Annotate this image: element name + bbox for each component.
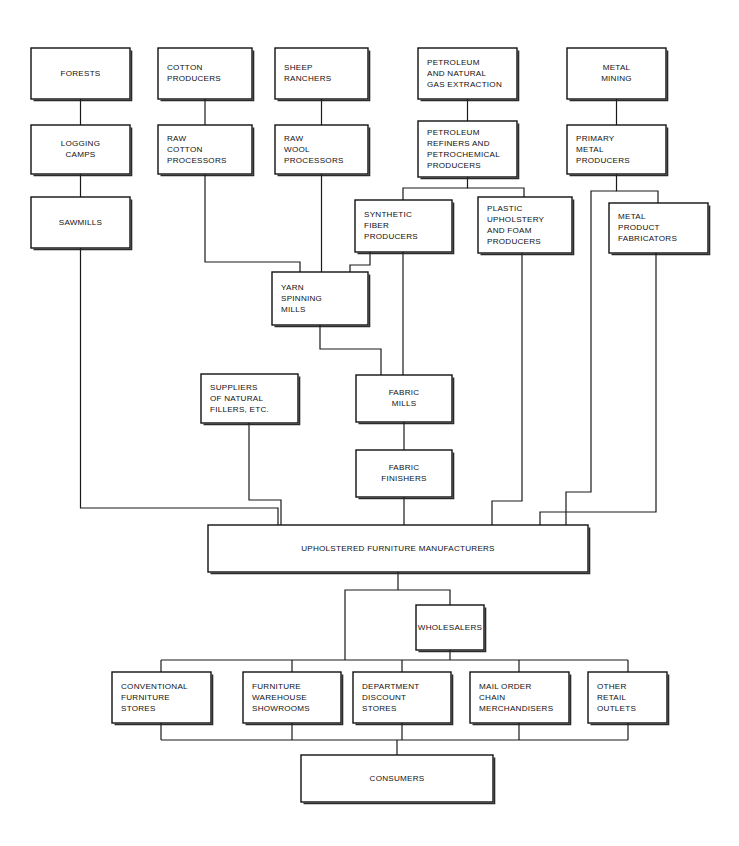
node-label: PRODUCERS [487,237,541,246]
node-label: PROCESSORS [284,156,344,165]
node-raw_wool[interactable]: RAWWOOLPROCESSORS [275,125,370,176]
node-label: FORESTS [61,69,101,78]
node-label: WHOLESALERS [418,623,483,632]
node-label: PROCESSORS [167,156,227,165]
node-raw_cotton[interactable]: RAWCOTTONPROCESSORS [158,125,254,176]
node-label: UPHOLSTERY [487,215,545,224]
node-label: FURNITURE [252,682,301,691]
node-label: CONSUMERS [370,774,425,783]
node-petro_refiners[interactable]: PETROLEUMREFINERS ANDPETROCHEMICALPRODUC… [418,121,519,179]
node-label: GAS EXTRACTION [427,80,502,89]
node-label: CAMPS [65,150,95,159]
node-label: PETROCHEMICAL [427,150,500,159]
node-label: PETROLEUM [427,58,480,67]
node-label: SHEEP [284,63,313,72]
node-sawmills[interactable]: SAWMILLS [31,197,132,250]
node-other_retail[interactable]: OTHERRETAILOUTLETS [588,672,669,725]
node-label: OTHER [597,682,627,691]
node-label: PRODUCERS [167,74,221,83]
node-label: PETROLEUM [427,128,480,137]
connector-plastic-manufacturers [492,253,522,525]
node-label: FURNITURE [121,693,170,702]
node-layer: FORESTSCOTTONPRODUCERSSHEEPRANCHERSPETRO… [31,48,710,804]
connector-manufacturers-wholesalers [398,590,450,605]
node-sheep_ranch[interactable]: SHEEPRANCHERS [275,48,370,101]
node-manufacturers[interactable]: UPHOLSTERED FURNITURE MANUFACTURERS [208,525,590,574]
node-label: OUTLETS [597,704,636,713]
node-metal_fab[interactable]: METALPRODUCTFABRICATORS [609,203,710,255]
node-label: MERCHANDISERS [479,704,554,713]
node-label: COTTON [167,63,203,72]
node-suppliers[interactable]: SUPPLIERSOF NATURALFILLERS, ETC. [201,374,300,425]
node-label: MINING [601,74,632,83]
node-furn_ware[interactable]: FURNITUREWAREHOUSESHOWROOMS [243,672,343,725]
node-label: LOGGING [61,139,101,148]
node-metal_mining[interactable]: METALMINING [567,48,668,101]
node-label: SUPPLIERS [210,383,258,392]
node-label: RAW [284,134,303,143]
node-label: PRIMARY [576,134,615,143]
node-label: PLASTIC [487,204,523,213]
node-logging[interactable]: LOGGINGCAMPS [31,125,132,176]
node-mail_order[interactable]: MAIL ORDERCHAINMERCHANDISERS [470,672,571,725]
node-label: RETAIL [597,693,626,702]
node-label: MAIL ORDER [479,682,532,691]
node-fabric_mills[interactable]: FABRICMILLS [356,375,454,424]
node-label: WAREHOUSE [252,693,307,702]
node-petroleum_ext[interactable]: PETROLEUMAND NATURALGAS EXTRACTION [418,48,519,101]
node-label: METAL [576,145,604,154]
node-synth_fiber[interactable]: SYNTHETICFIBERPRODUCERS [355,200,454,254]
connector-refiners-plastic [468,188,525,197]
node-label: AND NATURAL [427,69,487,78]
node-label: UPHOLSTERED FURNITURE MANUFACTURERS [301,544,495,553]
node-wholesalers[interactable]: WHOLESALERS [416,605,486,652]
node-label: PRODUCT [618,223,660,232]
node-primary_metal[interactable]: PRIMARYMETALPRODUCERS [567,125,668,176]
node-label: STORES [121,704,156,713]
connector-manufacturers-direct [345,590,398,660]
node-label: FIBER [364,221,389,230]
node-plastic_uph[interactable]: PLASTICUPHOLSTERYAND FOAMPRODUCERS [478,197,574,255]
connector-metalfab-manufacturers [540,253,656,525]
node-label: CHAIN [479,693,505,702]
node-fabric_finish[interactable]: FABRICFINISHERS [356,450,454,499]
node-label: OF NATURAL [210,394,263,403]
node-label: PRODUCERS [364,232,418,241]
supply-chain-flowchart: FORESTSCOTTONPRODUCERSSHEEPRANCHERSPETRO… [0,0,739,846]
node-label: DISCOUNT [362,693,406,702]
connector-refiners-synth [403,177,468,200]
node-label: SPINNING [281,294,322,303]
connector-rawcotton-yarn [205,174,300,272]
node-label: SYNTHETIC [364,210,412,219]
node-dept_disc[interactable]: DEPARTMENTDISCOUNTSTORES [353,672,453,725]
node-label: STORES [362,704,397,713]
node-forests[interactable]: FORESTS [31,48,132,101]
node-label: FABRIC [389,463,420,472]
node-label: SAWMILLS [59,218,103,227]
node-label: RAW [167,134,186,143]
node-consumers[interactable]: CONSUMERS [301,755,495,804]
node-label: WOOL [284,145,310,154]
node-conv_furn[interactable]: CONVENTIONALFURNITURESTORES [112,672,213,725]
node-label: MILLS [392,399,417,408]
node-label: FINISHERS [381,474,427,483]
node-label: DEPARTMENT [362,682,420,691]
node-label: PRODUCERS [427,161,481,170]
node-label: AND FOAM [487,226,532,235]
node-label: METAL [603,63,631,72]
node-cotton_prod[interactable]: COTTONPRODUCERS [158,48,254,101]
node-label: PRODUCERS [576,156,630,165]
connector-primary-metalfab [617,174,659,203]
node-label: CONVENTIONAL [121,682,188,691]
connector-synth-yarn [350,252,370,272]
node-label: COTTON [167,145,203,154]
node-yarn_mills[interactable]: YARNSPINNINGMILLS [272,272,370,327]
flowchart-canvas: FORESTSCOTTONPRODUCERSSHEEPRANCHERSPETRO… [0,0,739,846]
node-label: FILLERS, ETC. [210,405,269,414]
node-label: RANCHERS [284,74,332,83]
node-label: YARN [281,283,304,292]
node-label: MILLS [281,305,306,314]
connector-suppliers-manufacturers [249,423,281,525]
node-label: METAL [618,212,646,221]
connector-yarn-fabricmills [320,325,381,375]
